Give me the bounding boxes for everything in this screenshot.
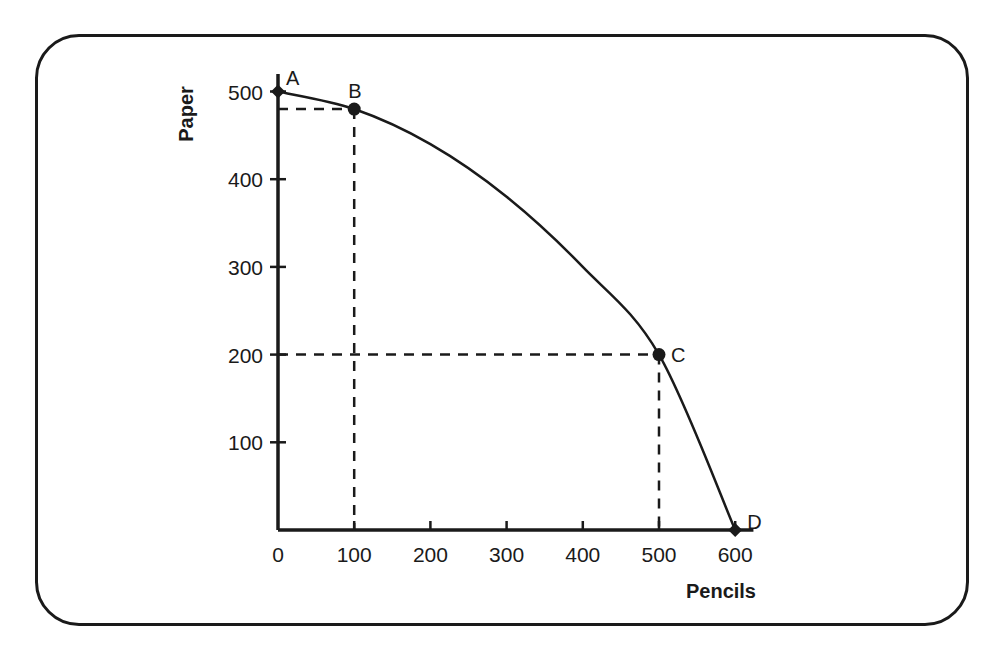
y-tick-label: 400 (228, 168, 263, 191)
point-marker-C (653, 348, 666, 361)
ppf-curve-line (278, 92, 735, 531)
axis-ticks: 0100200300400500600100200300400500 (228, 81, 753, 567)
point-label-B: B (348, 80, 361, 102)
y-tick-label: 100 (228, 431, 263, 454)
x-axis-title: Pencils (686, 580, 756, 602)
y-axis-title: Paper (175, 86, 197, 142)
y-tick-label: 300 (228, 256, 263, 279)
point-marker-B (348, 103, 361, 116)
dashed-reference-lines (278, 109, 659, 530)
point-label-D: D (747, 511, 761, 533)
x-tick-label: 300 (489, 543, 524, 566)
x-tick-label: 0 (272, 543, 284, 566)
point-marker-A (271, 85, 285, 99)
ppf-curve (278, 92, 735, 531)
ppf-chart: 0100200300400500600100200300400500 ABCD … (0, 0, 988, 650)
axes (278, 74, 753, 530)
y-tick-label: 500 (228, 81, 263, 104)
x-tick-label: 100 (337, 543, 372, 566)
x-tick-label: 400 (565, 543, 600, 566)
x-tick-label: 500 (641, 543, 676, 566)
point-marker-D (728, 523, 742, 537)
point-label-C: C (671, 344, 685, 366)
y-tick-label: 200 (228, 344, 263, 367)
data-points: ABCD (271, 67, 762, 538)
x-tick-label: 200 (413, 543, 448, 566)
x-tick-label: 600 (718, 543, 753, 566)
point-label-A: A (286, 67, 300, 89)
